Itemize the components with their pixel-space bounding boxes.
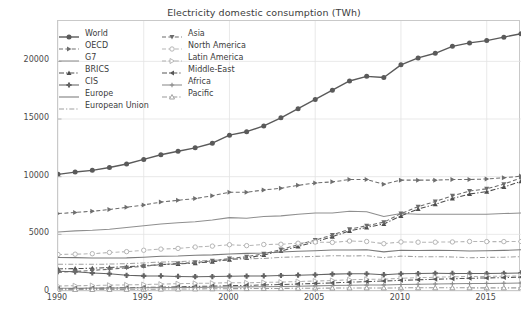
legend-item-pacific[interactable]: Pacific: [161, 88, 246, 100]
data-point-marker: [193, 274, 198, 279]
data-point-marker: [124, 249, 128, 253]
legend-line-sample: [58, 103, 80, 115]
data-point-marker: [450, 44, 455, 49]
x-axis-tick-label: 2010: [375, 293, 425, 302]
legend-item-label: Middle-East: [188, 64, 235, 76]
data-point-marker: [313, 240, 317, 244]
data-point-marker: [73, 252, 77, 256]
legend-item-g7[interactable]: G7: [58, 52, 149, 64]
data-point-marker: [73, 170, 78, 175]
legend-item-europe[interactable]: Europe: [58, 88, 149, 100]
data-point-marker: [193, 245, 197, 249]
data-point-marker: [159, 200, 164, 205]
legend-item-oecd[interactable]: OECD: [58, 40, 149, 52]
data-point-marker: [296, 241, 300, 245]
legend-item-latin-america[interactable]: Latin America: [161, 52, 246, 64]
data-point-marker: [170, 59, 175, 64]
data-point-marker: [313, 97, 318, 102]
legend-item-label: OECD: [85, 40, 108, 52]
data-point-marker: [73, 210, 78, 215]
data-point-marker: [227, 274, 232, 279]
legend-marker-icon: [58, 88, 80, 100]
x-axis-tick-label: 2005: [289, 293, 339, 302]
data-point-marker: [381, 285, 386, 290]
y-axis-tick-label: 20000: [5, 55, 49, 64]
legend-item-asia[interactable]: Asia: [161, 28, 246, 40]
data-point-marker: [124, 273, 129, 278]
data-point-marker: [261, 273, 266, 278]
legend-item-world[interactable]: World: [58, 28, 149, 40]
legend-item-european-union[interactable]: European Union: [58, 100, 149, 112]
y-axis-labels: 05000100001500020000: [5, 20, 53, 291]
data-point-marker: [278, 273, 283, 278]
data-point-marker: [279, 186, 284, 191]
data-point-marker: [502, 175, 507, 180]
data-point-marker: [502, 239, 506, 243]
legend-item-label: North America: [188, 40, 246, 52]
data-point-marker: [262, 187, 267, 192]
data-point-marker: [416, 55, 421, 60]
data-point-marker: [450, 194, 455, 199]
y-axis-tick-label: 15000: [5, 113, 49, 122]
data-point-marker: [485, 239, 489, 243]
series-line: [58, 211, 521, 232]
data-point-marker: [467, 285, 472, 290]
legend-marker-icon: [58, 40, 80, 52]
data-point-marker: [433, 240, 437, 244]
legend-item-middle-east[interactable]: Middle-East: [161, 64, 246, 76]
legend-item-cis[interactable]: CIS: [58, 76, 149, 88]
data-point-marker: [468, 177, 473, 182]
x-axis-labels: 199019952000200520102015: [57, 293, 520, 309]
data-point-marker: [176, 198, 181, 203]
legend-item-label: Europe: [85, 88, 113, 100]
data-point-marker: [124, 161, 129, 166]
data-point-marker: [467, 239, 471, 243]
y-axis-tick-label: 5000: [5, 228, 49, 237]
data-point-marker: [90, 252, 94, 256]
data-point-marker: [450, 177, 455, 182]
data-point-marker: [107, 165, 112, 170]
data-point-marker: [107, 271, 112, 276]
data-point-marker: [107, 207, 112, 212]
legend-item-label: BRICS: [85, 64, 109, 76]
legend-marker-icon: [161, 28, 183, 40]
data-point-marker: [210, 141, 215, 146]
data-point-marker: [107, 250, 111, 254]
data-point-marker: [175, 274, 180, 279]
data-point-marker: [295, 273, 300, 278]
legend-item-label: Africa: [188, 76, 211, 88]
legend-marker-icon: [161, 88, 183, 100]
legend-item-label: Latin America: [188, 52, 243, 64]
data-point-marker: [176, 246, 180, 250]
legend-item-north-america[interactable]: North America: [161, 40, 246, 52]
legend-marker-icon: [58, 100, 80, 112]
y-axis-tick-label: 10000: [5, 171, 49, 180]
series-g7: [58, 211, 521, 232]
data-point-marker: [90, 168, 95, 173]
legend-item-africa[interactable]: Africa: [161, 76, 246, 88]
data-point-marker: [330, 272, 335, 277]
data-point-marker: [364, 285, 369, 290]
data-point-marker: [433, 178, 438, 183]
legend-column-1: WorldOECDG7BRICSCISEuropeEuropean Union: [58, 28, 149, 112]
chart-legend: WorldOECDG7BRICSCISEuropeEuropean Union …: [58, 28, 238, 112]
data-point-marker: [467, 40, 472, 45]
data-point-marker: [141, 273, 146, 278]
data-point-marker: [382, 241, 386, 245]
data-point-marker: [227, 133, 232, 138]
data-point-marker: [519, 239, 521, 243]
data-point-marker: [450, 285, 455, 290]
data-point-marker: [262, 242, 266, 246]
legend-column-2: AsiaNorth AmericaLatin AmericaMiddle-Eas…: [161, 28, 246, 100]
data-point-marker: [58, 252, 60, 256]
data-point-marker: [159, 247, 163, 251]
series-line: [58, 256, 521, 265]
legend-item-brics[interactable]: BRICS: [58, 64, 149, 76]
data-point-marker: [313, 272, 318, 277]
data-point-marker: [90, 209, 95, 214]
legend-item-label: European Union: [85, 100, 149, 112]
x-axis-tick-label: 2015: [461, 293, 511, 302]
data-point-marker: [67, 47, 72, 52]
legend-marker-icon: [58, 28, 80, 40]
data-point-marker: [330, 179, 335, 184]
